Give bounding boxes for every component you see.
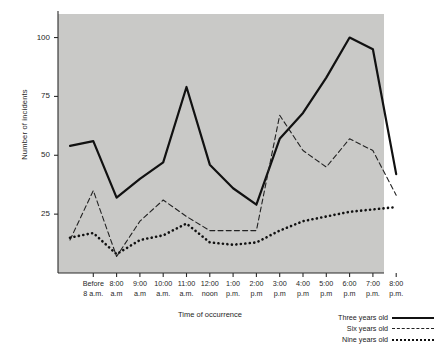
plot-area	[0, 0, 439, 352]
chart-figure: Number of incidents Time of occurrence 2…	[0, 0, 439, 352]
legend-swatch-dotted	[392, 335, 434, 344]
x-axis-title: Time of occurrence	[150, 310, 270, 319]
legend-swatch-solid	[392, 313, 434, 322]
y-tick-label: 75	[24, 91, 50, 100]
y-tick-label: 100	[24, 33, 50, 42]
chart-legend: Three years oldSix years oldNine years o…	[288, 312, 434, 345]
y-axis-title: Number of incidents	[20, 55, 29, 195]
y-tick-label: 50	[24, 150, 50, 159]
legend-swatch-dashed	[392, 324, 434, 333]
y-tick-label: 25	[24, 209, 50, 218]
plot-background	[58, 14, 384, 273]
legend-item: Three years old	[288, 312, 434, 323]
legend-label: Three years old	[338, 313, 388, 322]
legend-item: Nine years old	[288, 334, 434, 345]
legend-label: Nine years old	[342, 335, 388, 344]
x-tick-label: 8:00p.m.	[378, 279, 414, 298]
legend-label: Six years old	[347, 324, 388, 333]
legend-item: Six years old	[288, 323, 434, 334]
